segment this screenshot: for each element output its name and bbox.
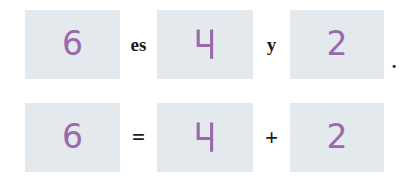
answer-box-addend-2-row1[interactable]: 2 xyxy=(290,10,384,79)
digit-addend-2-row1: 2 xyxy=(327,27,348,60)
digit-addend-2-row2: 2 xyxy=(327,120,348,153)
answer-box-total-row1[interactable]: 6 xyxy=(25,10,120,79)
sentence-period: . xyxy=(384,52,404,79)
answer-box-addend-1-row1[interactable] xyxy=(157,10,253,79)
digit-total-row2: 6 xyxy=(62,120,83,153)
operator-equals: = xyxy=(120,126,157,149)
equation-row: 6 = + 2 xyxy=(0,103,405,172)
digit-addend-1-row2 xyxy=(195,120,215,154)
operator-y: y xyxy=(253,35,290,54)
digit-total-row1: 6 xyxy=(62,27,83,60)
answer-box-addend-2-row2[interactable]: 2 xyxy=(290,103,384,172)
equation-terminator xyxy=(384,164,404,172)
operator-plus: + xyxy=(253,126,290,149)
sentence-row: 6 es y 2 . xyxy=(0,10,405,79)
worksheet-exercise: 6 es y 2 . 6 = xyxy=(0,0,405,196)
answer-box-total-row2[interactable]: 6 xyxy=(25,103,120,172)
digit-addend-1-row1 xyxy=(195,27,215,61)
operator-es: es xyxy=(120,35,157,54)
answer-box-addend-1-row2[interactable] xyxy=(157,103,253,172)
